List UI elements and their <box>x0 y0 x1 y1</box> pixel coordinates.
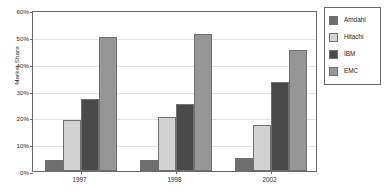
y-axis-tick-label: 40% <box>17 63 29 69</box>
bar-ibm-1997 <box>81 99 99 171</box>
y-axis-tick <box>30 93 33 94</box>
legend-item-emc[interactable]: EMC <box>329 63 377 80</box>
legend-swatch-hitachi <box>329 33 338 42</box>
y-axis-tick <box>30 146 33 147</box>
y-axis-tick <box>30 119 33 120</box>
legend-label: Amdahl <box>344 17 366 23</box>
bar-fill <box>195 35 211 170</box>
x-axis-tick <box>176 171 177 174</box>
bar-group <box>235 12 307 171</box>
bar-emc-1998 <box>194 34 212 171</box>
y-axis-tick <box>30 39 33 40</box>
bar-hitachi-1998 <box>158 117 176 171</box>
y-axis-tick-label: 20% <box>17 116 29 122</box>
bar-fill <box>159 118 175 170</box>
bar-fill <box>100 38 116 170</box>
bar-chart: Market Share 0%10%20%30%40%50%60% 199719… <box>0 0 384 192</box>
bar-group <box>140 12 212 171</box>
y-axis-tick <box>30 12 33 13</box>
y-axis-tick-label: 0% <box>20 170 29 176</box>
y-axis-tick-label: 30% <box>17 89 29 95</box>
bar-fill <box>290 51 306 170</box>
bar-ibm-2002 <box>271 82 289 171</box>
legend-swatch-amdahl <box>329 16 338 25</box>
legend-swatch-emc <box>329 67 338 76</box>
x-axis-label-2002: 2002 <box>262 176 276 183</box>
y-axis-tick <box>30 173 33 174</box>
bar-amdahl-2002 <box>235 158 253 171</box>
bar-fill <box>82 100 98 170</box>
bar-fill <box>272 83 288 170</box>
bar-hitachi-2002 <box>253 125 271 171</box>
x-axis-tick <box>271 171 272 174</box>
legend: AmdahlHitachiIBMEMC <box>324 7 381 85</box>
x-axis-tick <box>81 171 82 174</box>
bar-fill <box>177 105 193 170</box>
y-axis-tick-label: 60% <box>17 9 29 15</box>
x-axis-label-1998: 1998 <box>167 176 181 183</box>
bar-ibm-1998 <box>176 104 194 171</box>
bar-group <box>45 12 117 171</box>
legend-item-ibm[interactable]: IBM <box>329 46 377 63</box>
plot-area: 0%10%20%30%40%50%60% <box>32 11 317 172</box>
bar-emc-2002 <box>289 50 307 171</box>
y-axis-tick-label: 50% <box>17 36 29 42</box>
bar-hitachi-1997 <box>63 120 81 171</box>
bar-emc-1997 <box>99 37 117 171</box>
legend-item-hitachi[interactable]: Hitachi <box>329 29 377 46</box>
bar-fill <box>254 126 270 170</box>
bar-amdahl-1997 <box>45 160 63 171</box>
legend-swatch-ibm <box>329 50 338 59</box>
bar-fill <box>46 161 62 170</box>
bar-fill <box>64 121 80 170</box>
legend-label: EMC <box>344 68 358 74</box>
y-axis-tick <box>30 66 33 67</box>
legend-item-amdahl[interactable]: Amdahl <box>329 12 377 29</box>
bar-fill <box>141 161 157 170</box>
y-axis-tick-label: 10% <box>17 143 29 149</box>
x-axis-label-1997: 1997 <box>72 176 86 183</box>
bar-amdahl-1998 <box>140 160 158 171</box>
legend-label: Hitachi <box>344 34 364 40</box>
legend-label: IBM <box>344 51 355 57</box>
bar-fill <box>236 159 252 170</box>
